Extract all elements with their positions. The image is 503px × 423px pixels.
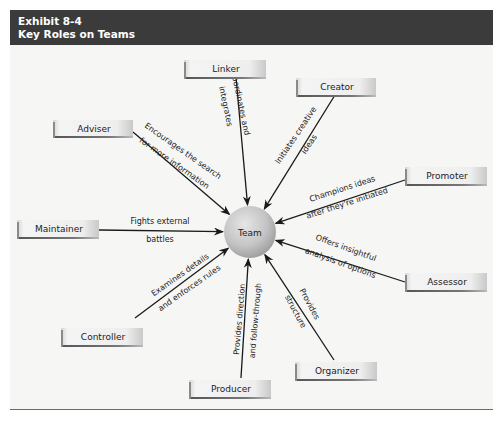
promoter-label: Promoter [426, 171, 468, 181]
creator-role-box: Creator [296, 78, 376, 97]
maintainer-role-box: Maintainer [17, 220, 99, 239]
adviser-description: Encourages the searchfor more informatio… [134, 121, 223, 193]
creator-description-line: ideas [300, 133, 319, 156]
box-edge [189, 382, 191, 399]
organizer-description: Providesstructure [283, 286, 322, 330]
controller-role-box: Controller [61, 328, 143, 347]
box-edge [405, 275, 407, 292]
box-edge [53, 122, 55, 138]
assessor-role-box: Assessor [405, 273, 487, 292]
box-edge [61, 330, 63, 347]
box-edge [17, 222, 19, 239]
producer-description-line: and follow-through [248, 283, 264, 359]
box-edge [405, 169, 407, 186]
organizer-arrow [265, 255, 334, 360]
maintainer-description-line: Fights external [130, 217, 189, 226]
producer-label: Producer [211, 384, 251, 394]
box-edge [184, 62, 186, 79]
organizer-label: Organizer [315, 366, 359, 376]
organizer-role-box: Organizer [295, 362, 377, 381]
controller-label: Controller [81, 332, 126, 342]
assessor-label: Assessor [427, 277, 467, 287]
controller-arrow [135, 248, 228, 318]
linker-label: Linker [212, 64, 240, 74]
box-edge [296, 80, 298, 97]
assessor-description: Offers insightfulanalysis of options [304, 231, 383, 280]
producer-role-box: Producer [189, 380, 271, 399]
linker-description: Coordinates andintegrates [214, 70, 251, 139]
producer-description: Provides directionand follow-through [232, 281, 263, 358]
adviser-role-box: Adviser [53, 120, 133, 138]
creator-label: Creator [320, 82, 354, 92]
promoter-role-box: Promoter [405, 167, 487, 186]
maintainer-description-line: battles [146, 235, 174, 244]
linker-role-box: Linker [184, 60, 266, 79]
team-label: Team [237, 228, 262, 238]
box-edge [295, 364, 297, 381]
maintainer-arrow [99, 230, 223, 232]
linker-description-line: integrates [217, 85, 234, 127]
adviser-label: Adviser [77, 124, 111, 134]
maintainer-label: Maintainer [35, 224, 83, 234]
team-roles-diagram: Coordinates andintegratesInitiates creat… [0, 0, 503, 423]
promoter-description: Champions ideasafter they're initiated [301, 171, 389, 220]
